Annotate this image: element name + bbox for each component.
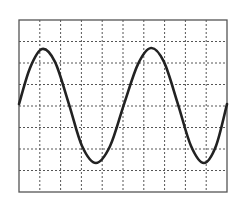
oscilloscope-chart (0, 0, 239, 211)
chart-canvas (0, 0, 239, 211)
